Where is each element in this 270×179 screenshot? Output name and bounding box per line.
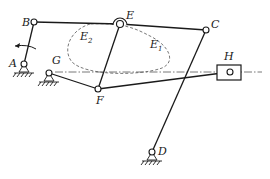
joint-g bbox=[46, 70, 52, 76]
label-a: A bbox=[8, 57, 17, 70]
label-c: C bbox=[211, 18, 220, 31]
joint-a bbox=[21, 61, 27, 67]
link-ec bbox=[120, 24, 206, 30]
label-h: H bbox=[223, 50, 234, 63]
joint-d bbox=[149, 149, 155, 155]
label-d: D bbox=[157, 145, 167, 158]
joint-b bbox=[31, 19, 37, 25]
joint-c bbox=[203, 27, 209, 33]
label-e: E bbox=[125, 9, 134, 22]
link-be bbox=[34, 22, 120, 24]
link-gf bbox=[49, 73, 98, 89]
joint-f bbox=[95, 86, 101, 92]
joint-e bbox=[117, 21, 124, 28]
link-fh bbox=[98, 72, 230, 89]
label-e1: E1 bbox=[149, 38, 163, 53]
joint-h bbox=[227, 69, 233, 75]
label-f: F bbox=[95, 94, 104, 107]
label-e2: E2 bbox=[79, 30, 93, 45]
label-b: B bbox=[21, 16, 30, 29]
link-ef bbox=[98, 24, 120, 89]
label-g: G bbox=[52, 54, 61, 67]
linkage-diagram: A B E C G F H D E2 E1 bbox=[0, 0, 270, 179]
